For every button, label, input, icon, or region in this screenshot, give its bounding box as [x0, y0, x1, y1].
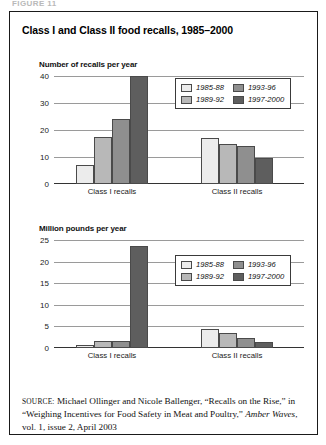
x-axis-category-label: Class I recalls	[76, 351, 148, 360]
bar	[255, 158, 273, 184]
y-axis-tick-label: 30	[40, 99, 49, 108]
legend-label: 1993-96	[248, 83, 276, 92]
bar	[94, 137, 112, 184]
bar	[112, 119, 130, 184]
bar	[237, 146, 255, 184]
legend-item: 1989-92	[181, 95, 224, 104]
legend-label: 1985-88	[196, 83, 224, 92]
legend-label: 1997-2000	[248, 272, 284, 281]
legend-item: 1993-96	[233, 260, 284, 269]
figure-title: Class I and Class II food recalls, 1985–…	[22, 24, 233, 36]
bar	[76, 345, 94, 348]
legend-label: 1985-88	[196, 260, 224, 269]
legend-swatch-icon	[233, 261, 244, 269]
y-axis-tick-label: 20	[40, 257, 49, 266]
y-axis-tick-label: 5	[45, 322, 49, 331]
figure-frame: Class I and Class II food recalls, 1985–…	[9, 11, 318, 435]
legend-item: 1997-2000	[233, 95, 284, 104]
legend-swatch-icon	[181, 261, 192, 269]
y-axis-tick-label: 20	[40, 126, 49, 135]
legend-label: 1989-92	[196, 272, 224, 281]
legend-label: 1993-96	[248, 260, 276, 269]
y-axis-tick-label: 25	[40, 236, 49, 245]
source-publication-title: Amber Waves	[245, 409, 295, 419]
cut-off-figure-header: FIGURE 11	[12, 0, 132, 7]
legend-swatch-icon	[181, 84, 192, 92]
legend-swatch-icon	[181, 273, 192, 281]
x-axis-category-label: Class I recalls	[76, 187, 148, 196]
bar	[219, 333, 237, 348]
bar	[94, 341, 112, 348]
legend-label: 1997-2000	[248, 95, 284, 104]
legend-item: 1997-2000	[233, 272, 284, 281]
chart-panel-million-pounds-per-year: Million pounds per year 0510152025Class …	[10, 224, 317, 384]
bar	[76, 165, 94, 184]
bar	[201, 138, 219, 184]
chart-axis-title-top: Number of recalls per year	[39, 60, 137, 69]
y-axis-tick-label: 10	[40, 153, 49, 162]
chart-axis-title-bottom: Million pounds per year	[39, 224, 127, 233]
bar	[130, 76, 148, 184]
bar	[201, 329, 219, 348]
legend-item: 1985-88	[181, 83, 224, 92]
legend-item: 1993-96	[233, 83, 284, 92]
y-axis-tick-label: 0	[45, 344, 49, 353]
source-note: SOURCE: Michael Ollinger and Nicole Ball…	[22, 395, 305, 433]
legend-swatch-icon	[181, 96, 192, 104]
bar-group: Class I recalls	[76, 76, 148, 184]
bar	[130, 246, 148, 348]
legend-swatch-icon	[233, 273, 244, 281]
legend-swatch-icon	[233, 96, 244, 104]
legend-item: 1989-92	[181, 272, 224, 281]
bar-group: Class I recalls	[76, 240, 148, 348]
chart-panel-recalls-per-year: Number of recalls per year 010203040Clas…	[10, 60, 317, 218]
y-axis-tick-label: 0	[45, 180, 49, 189]
bar	[112, 341, 130, 348]
legend-swatch-icon	[233, 84, 244, 92]
x-axis-category-label: Class II recalls	[201, 351, 273, 360]
bar	[219, 144, 237, 185]
bar	[255, 342, 273, 348]
legend-label: 1989-92	[196, 95, 224, 104]
y-axis-tick-label: 10	[40, 300, 49, 309]
y-axis-tick-label: 40	[40, 72, 49, 81]
chart-legend-top: 1985-88 1993-96 1989-92 1997-2000	[175, 78, 291, 109]
x-axis-category-label: Class II recalls	[201, 187, 273, 196]
legend-item: 1985-88	[181, 260, 224, 269]
y-axis-tick-label: 15	[40, 279, 49, 288]
source-label: SOURCE:	[22, 397, 55, 406]
bar	[237, 338, 255, 348]
chart-legend-bottom: 1985-88 1993-96 1989-92 1997-2000	[175, 255, 291, 286]
